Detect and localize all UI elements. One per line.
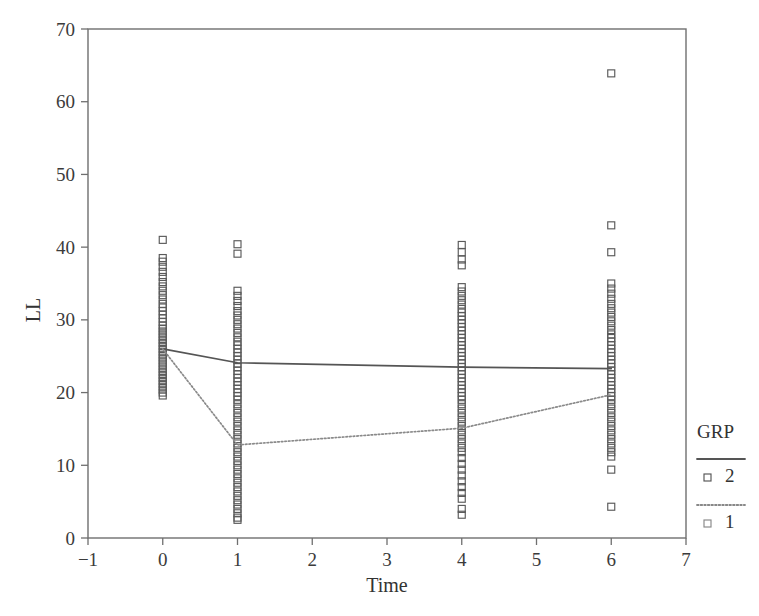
legend-title: GRP	[697, 421, 734, 442]
y-tick-label: 50	[56, 164, 75, 185]
legend-label-2[interactable]: 2	[725, 465, 735, 486]
x-axis-title: Time	[366, 574, 408, 596]
x-tick-label: 6	[607, 549, 617, 570]
x-tick-label: −1	[78, 549, 98, 570]
y-tick-label: 60	[56, 91, 75, 112]
y-tick-label: 30	[56, 309, 75, 330]
x-tick-label: 3	[382, 549, 392, 570]
legend-label-1[interactable]: 1	[725, 511, 735, 532]
figure-background	[0, 0, 759, 616]
x-tick-label: 1	[233, 549, 243, 570]
x-tick-label: 2	[308, 549, 318, 570]
y-tick-label: 20	[56, 382, 75, 403]
y-tick-label: 70	[56, 19, 75, 40]
y-tick-label: 10	[56, 455, 75, 476]
x-tick-label: 0	[158, 549, 168, 570]
x-tick-label: 5	[532, 549, 542, 570]
x-tick-label: 7	[681, 549, 691, 570]
y-axis-title: LL	[22, 298, 44, 322]
y-tick-label: 0	[66, 528, 76, 549]
scatter-line-plot: 010203040506070 −101234567 GRP21 LL Time	[0, 0, 759, 616]
x-tick-label: 4	[457, 549, 467, 570]
chart-figure: 010203040506070 −101234567 GRP21 LL Time	[0, 0, 759, 616]
y-tick-label: 40	[56, 237, 75, 258]
